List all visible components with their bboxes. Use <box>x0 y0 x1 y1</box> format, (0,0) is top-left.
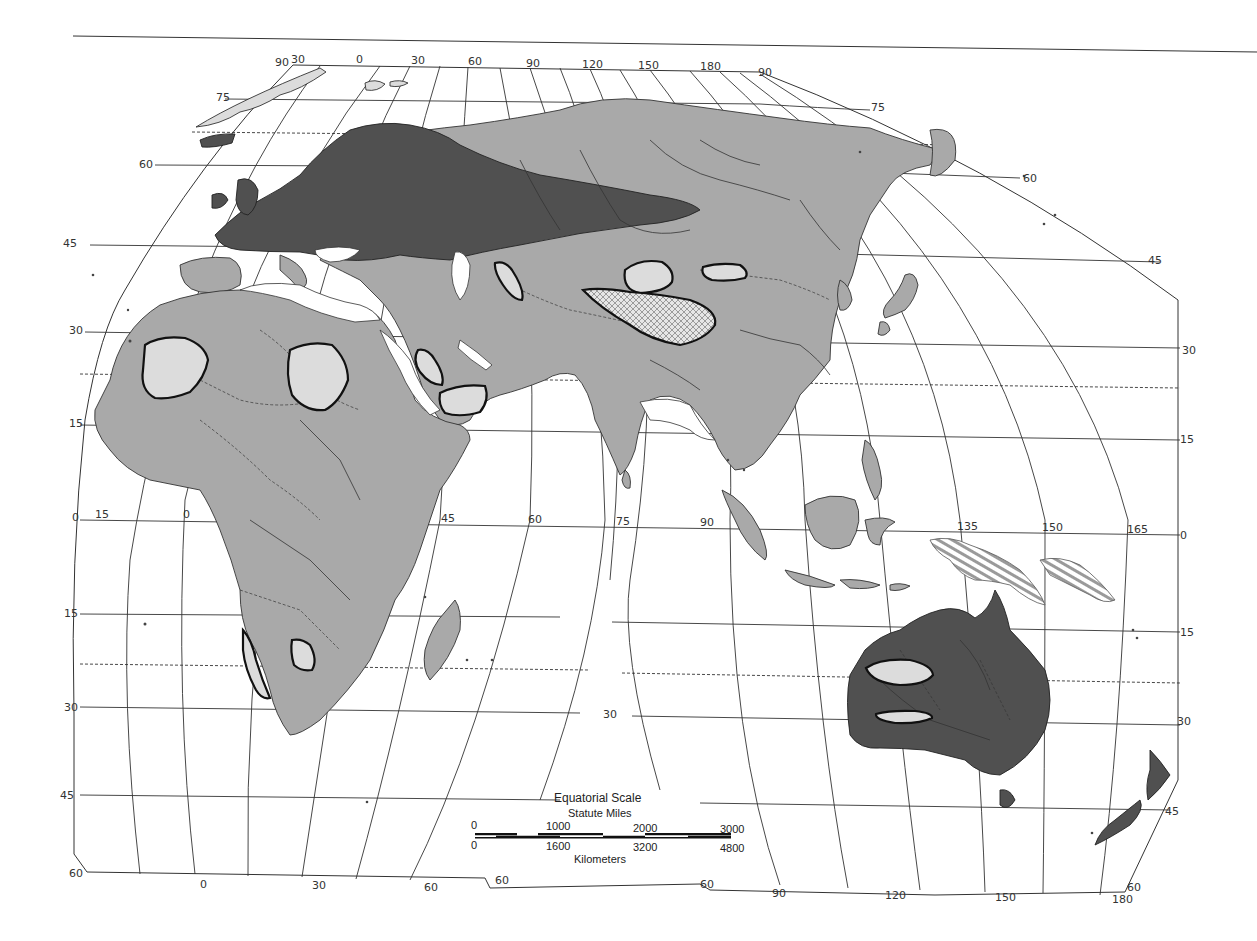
svg-text:1600: 1600 <box>546 840 570 852</box>
svg-text:45: 45 <box>441 512 455 525</box>
svg-text:15: 15 <box>95 508 109 521</box>
svg-text:0: 0 <box>356 53 363 66</box>
new-guinea <box>930 538 1045 605</box>
borneo <box>805 496 859 549</box>
scale-title: Equatorial Scale <box>554 791 642 805</box>
parallel-labels-right: 75 60 45 30 15 0 15 30 45 60 <box>871 101 1196 894</box>
philippines <box>862 440 882 500</box>
svg-text:90: 90 <box>758 66 772 79</box>
taklamakan-region <box>625 261 673 293</box>
svg-text:45: 45 <box>63 237 77 250</box>
arabia-south-region <box>440 385 487 415</box>
svg-text:90: 90 <box>700 516 714 529</box>
svg-text:15: 15 <box>1180 433 1194 446</box>
svg-text:60: 60 <box>139 158 153 171</box>
svg-text:60: 60 <box>468 55 482 68</box>
map-canvas: 90 30 0 30 60 90 120 150 180 90 75 60 45… <box>0 0 1257 941</box>
landmasses <box>95 68 1170 845</box>
australia-great-victoria-region <box>876 711 932 723</box>
svg-text:0: 0 <box>471 839 477 851</box>
svg-text:150: 150 <box>995 891 1016 904</box>
svg-text:60: 60 <box>495 874 509 887</box>
tasmania <box>1000 790 1015 808</box>
svg-text:150: 150 <box>638 59 659 72</box>
svg-text:30: 30 <box>291 53 305 66</box>
svg-text:0: 0 <box>471 819 477 831</box>
svg-text:4800: 4800 <box>720 842 744 854</box>
svg-text:45: 45 <box>60 789 74 802</box>
svg-text:180: 180 <box>700 60 721 73</box>
svg-text:0: 0 <box>183 508 190 521</box>
new-zealand-south <box>1095 800 1141 845</box>
svg-text:30: 30 <box>1177 715 1191 728</box>
svg-text:45: 45 <box>1165 805 1179 818</box>
scale-km-label: Kilometers <box>574 853 626 865</box>
svg-text:3200: 3200 <box>633 841 657 853</box>
svg-text:2000: 2000 <box>633 822 657 834</box>
svg-text:120: 120 <box>885 889 906 902</box>
svg-text:60: 60 <box>700 878 714 891</box>
svg-text:30: 30 <box>411 54 425 67</box>
svg-text:90: 90 <box>275 56 289 69</box>
sumatra <box>722 490 767 560</box>
svg-text:15: 15 <box>1180 626 1194 639</box>
svg-text:120: 120 <box>582 58 603 71</box>
svg-text:0: 0 <box>1180 529 1187 542</box>
svg-text:165: 165 <box>1127 523 1148 536</box>
top-rule <box>73 36 1257 52</box>
japan <box>883 274 918 318</box>
svg-text:75: 75 <box>616 515 630 528</box>
java <box>785 570 835 588</box>
iberia <box>180 257 241 292</box>
svg-text:180: 180 <box>1112 893 1133 906</box>
svg-text:75: 75 <box>216 91 230 104</box>
interior-labels: 30 <box>603 708 617 721</box>
svg-text:30: 30 <box>603 708 617 721</box>
hemisphere-map: 90 30 0 30 60 90 120 150 180 90 75 60 45… <box>0 0 1257 941</box>
svg-text:60: 60 <box>424 881 438 894</box>
svg-text:1000: 1000 <box>546 820 570 832</box>
svg-text:150: 150 <box>1042 521 1063 534</box>
svg-text:45: 45 <box>1148 254 1162 267</box>
svg-text:30: 30 <box>69 324 83 337</box>
svg-text:60: 60 <box>1023 172 1037 185</box>
scale-bar: Equatorial Scale Statute Miles 0 1000 20… <box>471 791 744 865</box>
svg-text:60: 60 <box>528 513 542 526</box>
svg-text:15: 15 <box>64 607 78 620</box>
australia <box>848 590 1051 775</box>
svg-text:0: 0 <box>200 878 207 891</box>
svg-text:60: 60 <box>69 867 83 880</box>
svg-text:0: 0 <box>72 511 79 524</box>
iceland <box>200 134 235 147</box>
svg-text:30: 30 <box>64 701 78 714</box>
svg-text:75: 75 <box>871 101 885 114</box>
meridian-labels-bottom: 0 30 60 60 60 90 120 150 180 <box>200 874 1133 906</box>
scale-miles-label: Statute Miles <box>568 807 632 819</box>
solomon-islands <box>1040 558 1115 601</box>
svg-text:135: 135 <box>957 520 978 533</box>
svg-text:30: 30 <box>1182 344 1196 357</box>
svg-text:30: 30 <box>312 879 326 892</box>
gobi-region <box>702 264 746 281</box>
new-zealand-north <box>1147 750 1170 800</box>
svg-text:90: 90 <box>772 887 786 900</box>
svg-text:90: 90 <box>526 57 540 70</box>
svg-text:15: 15 <box>69 417 83 430</box>
